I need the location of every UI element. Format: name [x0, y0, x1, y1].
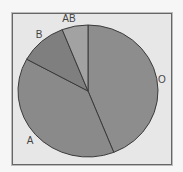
slice-label-o: O: [158, 75, 166, 85]
slice-label-ab: AB: [62, 14, 75, 24]
slice-label-a: A: [27, 136, 34, 146]
pie-slices: [18, 25, 158, 157]
slice-label-b: B: [36, 30, 43, 40]
pie-chart: [0, 0, 183, 172]
